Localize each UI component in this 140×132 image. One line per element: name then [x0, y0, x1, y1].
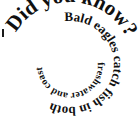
spiral-text-canvas: Did you know? Bald eagles catch fish in …: [0, 0, 140, 132]
spiral-text-image: Did you know? Bald eagles catch fish in …: [0, 0, 140, 132]
left-edge-artifact: [2, 29, 4, 37]
